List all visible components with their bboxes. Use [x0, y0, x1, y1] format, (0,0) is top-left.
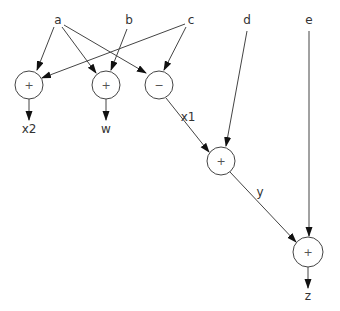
- plus-symbol: +: [101, 79, 110, 92]
- input-label-c: c: [188, 13, 195, 27]
- edge-c-to-x1-subtractor: [164, 27, 186, 70]
- input-label-b: b: [125, 13, 133, 27]
- plus-symbol: +: [24, 79, 33, 92]
- edge-a-to-x1-subtractor: [64, 25, 146, 73]
- edges: [29, 24, 309, 288]
- output-label-z: z: [305, 289, 311, 303]
- operator-y-adder: +: [207, 147, 235, 175]
- operator-x2-adder: +: [15, 71, 43, 99]
- output-label-w: w: [101, 122, 111, 136]
- input-label-d: d: [243, 13, 251, 27]
- minus-symbol: −: [154, 79, 163, 92]
- edge-b-to-w-adder: [111, 29, 127, 70]
- operator-z-adder: +: [293, 237, 323, 267]
- output-label-x2: x2: [22, 122, 37, 136]
- plus-symbol: +: [303, 246, 312, 259]
- edge-label-y: y: [256, 185, 263, 199]
- input-label-e: e: [305, 13, 312, 27]
- edge-x1-to-y-adder: [166, 98, 209, 152]
- plus-symbol: +: [216, 155, 225, 168]
- operator-w-adder: +: [92, 71, 120, 99]
- edge-d-to-y-adder: [226, 31, 247, 146]
- operator-x1-subtractor: −: [145, 71, 173, 99]
- edge-y-to-z-adder: [230, 172, 296, 242]
- input-label-a: a: [54, 13, 61, 27]
- computation-graph: + + − + + a b c d e x1 y x2 w z: [0, 0, 340, 311]
- edge-c-to-x2-adder: [42, 24, 185, 78]
- edge-label-x1: x1: [181, 110, 196, 124]
- edge-a-to-x2-adder: [37, 27, 54, 70]
